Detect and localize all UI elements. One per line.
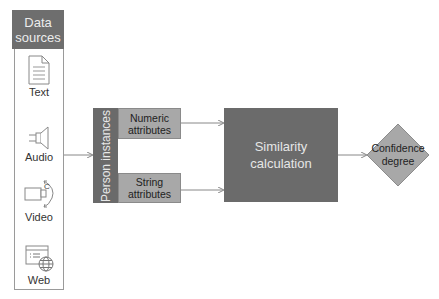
source-label-text: Text [14,86,64,98]
source-item-audio: Audio [14,126,64,163]
video-camera-icon: C [22,178,56,210]
confidence-line2: degree [371,155,424,168]
person-instances-label: Person instances [99,109,113,201]
similarity-line1: Similarity [250,138,311,155]
confidence-line1: Confidence [371,142,424,155]
source-item-text: Text [14,55,64,98]
numeric-attributes-line1: Numeric [128,112,171,124]
svg-text:C: C [44,182,50,191]
source-label-video: Video [14,211,64,223]
document-icon [27,55,51,85]
numeric-attributes-line2: attributes [128,124,171,136]
data-sources-title-line1: Data [15,15,61,30]
person-instances-bar: Person instances [93,108,118,203]
data-sources-header: Data sources [12,10,64,49]
confidence-degree-label: Confidence degree [366,123,430,187]
speaker-icon [26,126,52,150]
data-sources-title-line2: sources [15,30,61,45]
similarity-line2: calculation [250,155,311,172]
numeric-attributes-box: Numeric attributes [118,108,181,139]
source-item-web: Web [14,245,64,286]
string-attributes-line2: attributes [128,188,171,200]
string-attributes-line1: String [128,176,171,188]
similarity-calculation-box: Similarity calculation [224,108,338,202]
source-label-audio: Audio [14,151,64,163]
web-page-icon [22,245,56,273]
string-attributes-box: String attributes [118,173,181,203]
source-item-video: C Video [14,178,64,223]
source-label-web: Web [14,274,64,286]
